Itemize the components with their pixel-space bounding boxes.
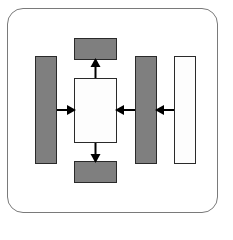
center-box xyxy=(74,78,117,143)
right-gray-bar xyxy=(135,56,157,164)
left-bar xyxy=(35,56,57,164)
bottom-box xyxy=(74,161,117,183)
top-box xyxy=(74,38,117,60)
right-white-bar xyxy=(174,56,196,164)
